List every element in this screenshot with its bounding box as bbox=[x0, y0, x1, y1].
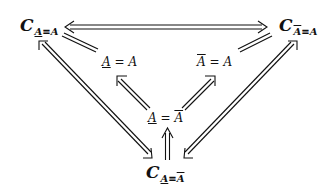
arrow-mid-center-to-mid-right bbox=[182, 76, 215, 110]
node-rel: = bbox=[210, 55, 220, 69]
node-rhs: A bbox=[51, 26, 59, 37]
equality-mid-left-top-left bbox=[62, 33, 98, 52]
node-rhs: A bbox=[174, 111, 183, 125]
node-rhs: A bbox=[310, 26, 318, 37]
node-lhs: A bbox=[148, 111, 157, 125]
node-rhs: A bbox=[223, 55, 232, 69]
node-c-symbol: C bbox=[279, 15, 293, 35]
arrow-mid-center-to-mid-left bbox=[117, 76, 150, 110]
node-rel: = bbox=[115, 55, 125, 69]
node-mid-left: A = A bbox=[102, 56, 137, 68]
node-c-symbol: C bbox=[146, 162, 160, 182]
node-top-left: CA≡A bbox=[20, 17, 58, 34]
node-rel: ≡ bbox=[168, 173, 176, 184]
node-rel: = bbox=[161, 111, 171, 125]
node-mid-right: A = A bbox=[197, 56, 232, 68]
arrow-top-left-to-top-right bbox=[65, 21, 267, 33]
node-c-symbol: C bbox=[20, 15, 34, 35]
node-lhs: A bbox=[197, 55, 206, 69]
node-top-right: CA≡A bbox=[279, 17, 317, 34]
node-rhs: A bbox=[128, 55, 137, 69]
arrow-bottom-to-mid-center bbox=[162, 128, 173, 160]
node-rel: ≡ bbox=[42, 26, 50, 37]
equality-mid-right-top-right bbox=[238, 33, 272, 52]
node-rhs: A bbox=[177, 173, 185, 184]
node-rel: ≡ bbox=[301, 26, 309, 37]
node-bottom: CA≡A bbox=[146, 164, 184, 181]
node-lhs: A bbox=[102, 55, 111, 69]
node-mid-center: A = A bbox=[148, 112, 183, 124]
